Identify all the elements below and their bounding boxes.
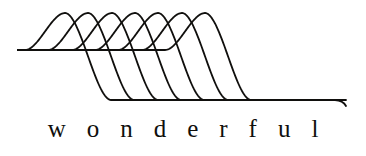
wave-curve-5 — [18, 13, 340, 100]
wonderful-figure: wonderful — [0, 0, 366, 156]
wave-curve-1 — [18, 13, 340, 100]
wave-curve-2 — [18, 13, 340, 100]
wave-curve-3 — [18, 13, 340, 100]
wave-curve-6 — [18, 13, 340, 100]
wave-curve-group — [18, 13, 346, 100]
caption-wonderful: wonderful — [0, 112, 366, 146]
wave-curve-4 — [18, 13, 340, 100]
wave-curves-illustration — [0, 0, 366, 118]
